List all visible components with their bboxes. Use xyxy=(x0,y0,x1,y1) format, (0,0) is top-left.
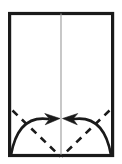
origami-diagram: Origami fold step Rectangular sheet of p… xyxy=(0,0,122,164)
diagram-canvas xyxy=(0,0,122,164)
